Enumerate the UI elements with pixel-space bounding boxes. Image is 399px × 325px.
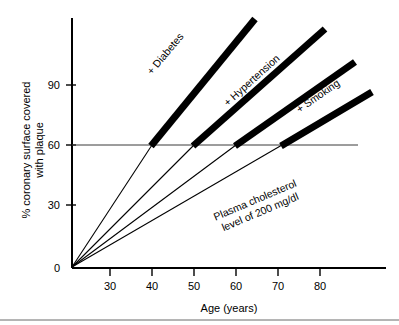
x-tick-label-50: 50: [188, 280, 200, 292]
annotation-plasma-cholesterol: Plasma cholesterol level of 200 mg/dl: [212, 177, 303, 235]
y-axis-title-line2: with plaque: [33, 122, 45, 179]
chart-figure: 90 60 30 0 30 40 50 60 70 80 + Diabet: [0, 0, 399, 325]
chart-plot-area: 90 60 30 0 30 40 50 60 70 80 + Diabet: [0, 0, 399, 325]
y-tick-label-30: 30: [48, 199, 60, 211]
series-smoking-thin: [72, 145, 236, 267]
x-tick-label-30: 30: [104, 280, 116, 292]
x-tick-label-80: 80: [314, 280, 326, 292]
series-label-diabetes: + Diabetes: [144, 30, 186, 76]
x-tick-label-60: 60: [230, 280, 242, 292]
x-tick-label-70: 70: [272, 280, 284, 292]
y-axis-title: % coronary surface covered with plaque: [20, 82, 45, 219]
y-tick-label-60: 60: [48, 139, 60, 151]
y-axis-title-line1: % coronary surface covered: [20, 82, 32, 219]
series-hypertension-thin: [72, 145, 194, 267]
x-axis-title: Age (years): [201, 302, 258, 314]
series-diabetes-thin: [72, 145, 152, 267]
x-tick-label-40: 40: [146, 280, 158, 292]
y-tick-label-0: 0: [54, 262, 60, 274]
y-tick-label-90: 90: [48, 79, 60, 91]
